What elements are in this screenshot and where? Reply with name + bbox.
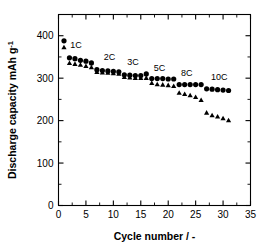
data-point-circle [226,88,231,93]
data-point-circle [160,76,165,81]
data-point-triangle [171,83,176,88]
x-tick-label-0: 0 [56,209,62,220]
rate-label-1c: 1C [70,40,82,50]
y-axis-title-superscript: -1 [6,41,15,48]
data-point-circle [149,76,154,81]
y-axis-title-main: Discharge capacity mAh g [6,48,18,179]
data-point-triangle [61,45,66,50]
data-point-triangle [199,97,204,102]
data-layer [61,38,231,122]
data-point-circle [210,87,215,92]
data-point-triangle [149,80,154,85]
rate-label-8c: 8C [181,68,193,78]
data-point-triangle [215,114,220,119]
data-point-circle [171,76,176,81]
data-point-triangle [193,94,198,99]
data-point-circle [67,55,72,60]
x-tick-label-35: 35 [245,209,257,220]
data-point-triangle [210,113,215,118]
rate-label-5c: 5C [154,63,166,73]
rate-label-2c: 2C [104,52,116,62]
data-point-triangle [89,65,94,70]
data-point-triangle [72,61,77,66]
x-tick-label-5: 5 [83,209,89,220]
data-point-triangle [155,82,160,87]
data-point-triangle [204,110,209,115]
data-point-circle [215,87,220,92]
x-tick-label-30: 30 [218,209,230,220]
y-tick-label-200: 200 [37,115,54,126]
data-point-circle [72,56,77,61]
y-tick-label-400: 400 [37,30,54,41]
data-point-triangle [166,83,171,88]
data-point-triangle [78,62,83,67]
data-point-triangle [177,90,182,95]
y-tick-label-100: 100 [37,158,54,169]
x-tick-label-25: 25 [190,209,202,220]
data-point-circle [220,87,225,92]
data-point-circle [61,38,66,43]
data-point-circle [83,59,88,64]
data-point-circle [166,76,171,81]
data-point-circle [177,82,182,87]
chart-figure: 0510152025303501002003004001C2C3C5C8C10C… [0,0,270,251]
data-point-circle [204,86,209,91]
data-point-triangle [67,60,72,65]
data-point-triangle [226,118,231,123]
data-point-triangle [83,63,88,68]
data-point-circle [199,82,204,87]
x-tick-label-10: 10 [108,209,120,220]
data-point-triangle [182,91,187,96]
discharge-capacity-scatter-plot: 0510152025303501002003004001C2C3C5C8C10C… [0,0,270,251]
data-point-triangle [220,116,225,121]
y-tick-label-300: 300 [37,73,54,84]
data-point-circle [182,82,187,87]
x-tick-label-15: 15 [135,209,147,220]
y-axis-title: Discharge capacity mAh g-1 [6,41,19,179]
x-axis-title: Cycle number / - [114,230,196,242]
rate-label-3c: 3C [127,57,139,67]
rate-label-10c: 10C [211,72,228,82]
data-point-triangle [160,82,165,87]
data-point-circle [155,76,160,81]
data-point-circle [193,82,198,87]
series-triangles [61,45,231,123]
y-tick-label-0: 0 [48,200,54,211]
data-point-triangle [188,93,193,98]
data-point-triangle [144,75,149,80]
data-point-circle [188,82,193,87]
x-tick-label-20: 20 [163,209,175,220]
plot-frame [59,15,251,206]
